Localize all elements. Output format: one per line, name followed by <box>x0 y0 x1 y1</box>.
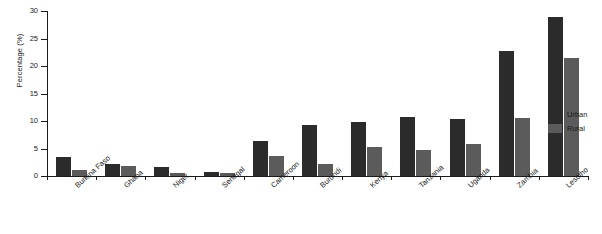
y-axis-title: Percentage (%) <box>15 6 24 116</box>
y-tick-label: 30 <box>30 7 38 15</box>
legend-label-urban: Urban <box>567 111 587 119</box>
legend-swatch-urban-icon <box>548 110 562 119</box>
x-tick-mark <box>588 176 589 180</box>
y-tick-label: 0 <box>34 172 38 180</box>
y-tick-label: 5 <box>34 145 38 153</box>
plot-area <box>47 11 588 176</box>
y-tick-label: 10 <box>30 117 38 125</box>
x-tick-mark <box>440 176 441 180</box>
y-tick-10: 10 <box>0 121 47 122</box>
bar-urban-cameroon <box>253 141 268 176</box>
y-tick-0: 0 <box>0 176 47 177</box>
y-tick-25: 25 <box>0 39 47 40</box>
bar-urban-tanzania <box>400 117 415 176</box>
bar-urban-zambia <box>499 51 514 176</box>
bar-urban-niger <box>154 167 169 176</box>
bar-urban-lesotho <box>548 17 563 176</box>
bar-urban-kenya <box>351 122 366 176</box>
x-tick-mark <box>145 176 146 180</box>
x-tick-mark <box>244 176 245 180</box>
y-tick-15: 15 <box>0 94 47 95</box>
legend: Urban Rural <box>548 110 587 138</box>
bar-rural-zambia <box>515 118 530 176</box>
bar-chart: Percentage (%) 051015202530 Burkina Faso… <box>0 0 602 234</box>
legend-swatch-rural-icon <box>548 124 562 133</box>
bar-urban-burundi <box>302 125 317 176</box>
y-tick-label: 20 <box>30 62 38 70</box>
bar-urban-burkina-faso <box>56 157 71 176</box>
y-tick-30: 30 <box>0 11 47 12</box>
bar-urban-uganda <box>450 119 465 176</box>
x-tick-mark <box>539 176 540 180</box>
x-tick-mark <box>96 176 97 180</box>
x-tick-mark <box>47 176 48 180</box>
legend-label-rural: Rural <box>567 125 585 133</box>
legend-item-rural: Rural <box>548 124 587 133</box>
x-tick-mark <box>195 176 196 180</box>
y-tick-label: 25 <box>30 35 38 43</box>
legend-item-urban: Urban <box>548 110 587 119</box>
x-tick-mark <box>490 176 491 180</box>
y-tick-label: 15 <box>30 90 38 98</box>
y-tick-20: 20 <box>0 66 47 67</box>
x-tick-mark <box>342 176 343 180</box>
bar-urban-senegal <box>204 172 219 176</box>
x-tick-mark <box>293 176 294 180</box>
y-tick-5: 5 <box>0 149 47 150</box>
x-tick-mark <box>391 176 392 180</box>
bar-urban-ghana <box>105 164 120 176</box>
